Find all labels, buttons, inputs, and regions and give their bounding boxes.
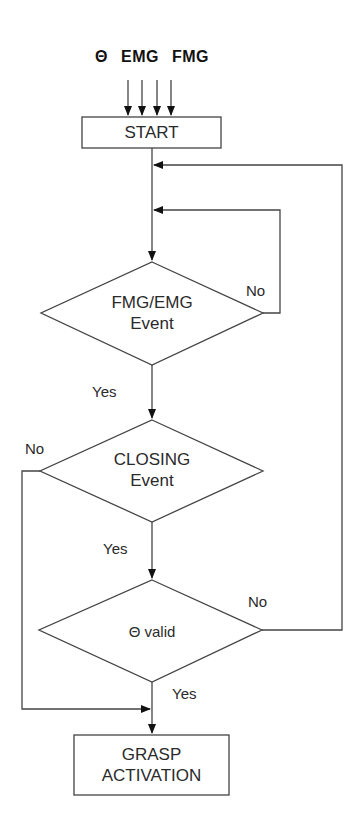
theta-no-label: No xyxy=(248,593,267,610)
input-theta: Θ xyxy=(95,48,108,65)
theta-valid-label: Θ valid xyxy=(92,621,212,642)
theta-yes-label: Yes xyxy=(172,685,196,702)
theta-no-loop xyxy=(154,165,342,630)
fmg-yes-label: Yes xyxy=(92,383,116,400)
closing-yes-label: Yes xyxy=(103,540,127,557)
input-signals: Θ EMG FMG xyxy=(0,48,304,66)
start-label: START xyxy=(82,122,221,143)
input-emg: EMG xyxy=(121,48,159,65)
closing-label: CLOSING Event xyxy=(82,449,222,491)
fmg-emg-label: FMG/EMG Event xyxy=(82,292,222,334)
grasp-activation-label: GRASP ACTIVATION xyxy=(74,744,229,786)
closing-no-label: No xyxy=(25,440,44,457)
fmg-no-label: No xyxy=(246,282,265,299)
input-fmg: FMG xyxy=(172,48,209,65)
